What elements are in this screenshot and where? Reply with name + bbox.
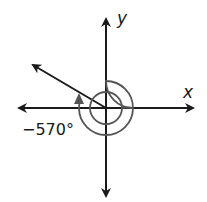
angle-label: −570° xyxy=(22,122,74,138)
x-axis-label: x xyxy=(183,84,193,101)
terminal-ray xyxy=(33,65,106,108)
angle-diagram: y x −570° xyxy=(0,0,207,202)
coordinate-plane xyxy=(0,0,207,202)
y-axis-label: y xyxy=(117,10,127,27)
